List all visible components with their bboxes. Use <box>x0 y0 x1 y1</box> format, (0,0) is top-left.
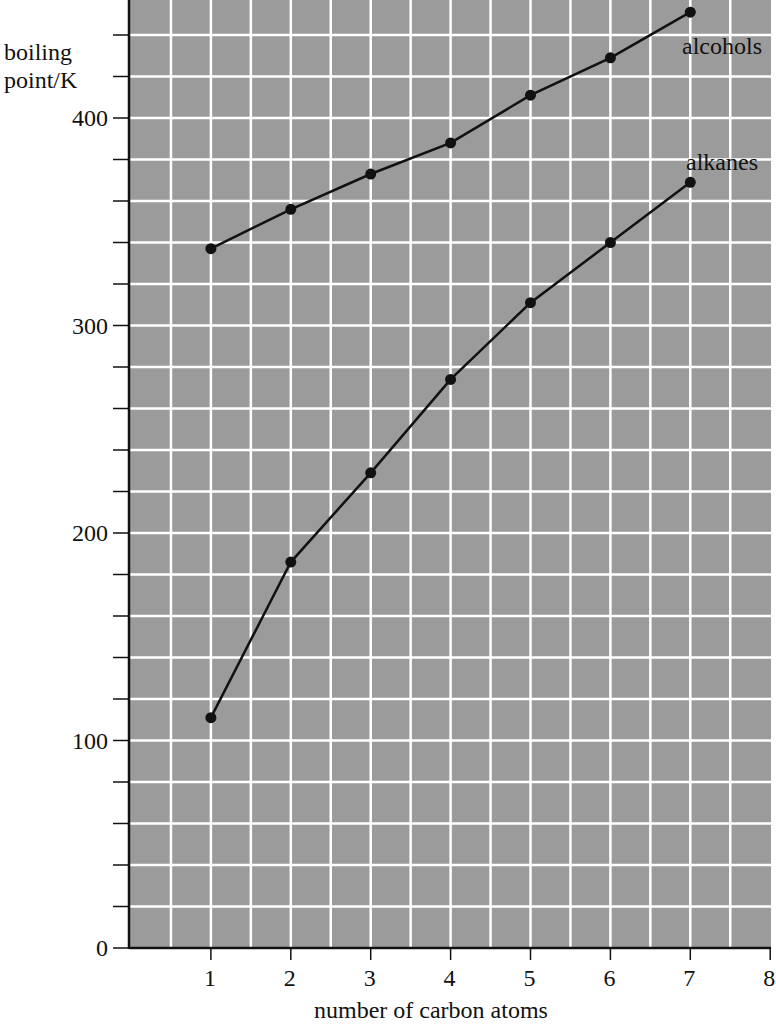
data-point-alkanes <box>525 297 536 308</box>
y-tick-label: 400 <box>72 106 108 130</box>
data-point-alkanes <box>285 557 296 568</box>
data-point-alcohols <box>685 7 696 18</box>
x-tick-label: 7 <box>683 966 695 990</box>
y-tick-label: 200 <box>72 521 108 545</box>
y-tick-label: 0 <box>96 936 108 960</box>
plot-area <box>0 0 776 1025</box>
x-tick-label: 4 <box>444 966 456 990</box>
boiling-point-chart: boiling point/K number of carbon atoms a… <box>0 0 776 1025</box>
y-tick-label: 100 <box>72 729 108 753</box>
x-tick-label: 8 <box>763 966 775 990</box>
data-point-alkanes <box>605 237 616 248</box>
data-point-alkanes <box>365 467 376 478</box>
x-tick-label: 1 <box>204 966 216 990</box>
series-label-alcohols: alcohols <box>682 34 762 58</box>
x-axis-label: number of carbon atoms <box>314 998 548 1022</box>
x-tick-label: 3 <box>364 966 376 990</box>
x-tick-label: 2 <box>284 966 296 990</box>
data-point-alcohols <box>365 169 376 180</box>
data-point-alcohols <box>285 204 296 215</box>
y-axis-label-line1: boiling <box>4 40 72 64</box>
series-label-alkanes: alkanes <box>686 150 758 174</box>
x-tick-label: 6 <box>603 966 615 990</box>
data-point-alcohols <box>605 52 616 63</box>
data-point-alkanes <box>205 712 216 723</box>
data-point-alkanes <box>445 374 456 385</box>
y-tick-label: 300 <box>72 314 108 338</box>
data-point-alcohols <box>525 90 536 101</box>
data-point-alcohols <box>205 243 216 254</box>
data-point-alkanes <box>685 177 696 188</box>
y-axis-label-line2: point/K <box>4 68 77 92</box>
x-tick-label: 5 <box>524 966 536 990</box>
data-point-alcohols <box>445 137 456 148</box>
